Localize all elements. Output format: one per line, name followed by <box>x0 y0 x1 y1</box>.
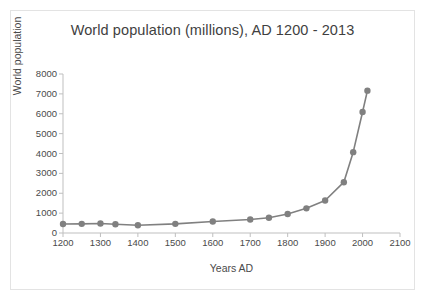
chart-figure: World population (millions), AD 1200 - 2… <box>0 0 424 304</box>
data-point-marker <box>364 87 370 93</box>
data-point-marker <box>60 221 66 227</box>
data-point-marker <box>350 149 356 155</box>
x-axis-label: Years AD <box>63 262 400 274</box>
chart-title: World population (millions), AD 1200 - 2… <box>10 22 415 38</box>
data-point-marker <box>341 179 347 185</box>
plot-area <box>63 74 400 233</box>
data-point-marker <box>284 211 290 217</box>
y-tick-label: 5000 <box>21 129 57 139</box>
x-tick-label: 1200 <box>43 237 83 248</box>
data-point-marker <box>303 205 309 211</box>
series-line <box>63 91 367 226</box>
y-tick-label: 3000 <box>21 168 57 178</box>
data-point-marker <box>172 221 178 227</box>
data-point-marker <box>79 221 85 227</box>
series-plot <box>63 74 400 233</box>
x-tick-label: 2100 <box>380 237 420 248</box>
x-tick-label: 2000 <box>343 237 383 248</box>
y-axis-tick-labels: 010002000300040005000600070008000 <box>21 74 57 233</box>
axis-lines <box>63 74 400 233</box>
data-point-marker <box>247 216 253 222</box>
x-tick-label: 1300 <box>80 237 120 248</box>
y-tick-label: 4000 <box>21 149 57 159</box>
x-tick-label: 1900 <box>305 237 345 248</box>
x-axis-tick-labels: 1200130014001500160017001800190020002100 <box>63 237 400 251</box>
y-tick-label: 8000 <box>21 69 57 79</box>
data-point-marker <box>210 218 216 224</box>
y-tick-label: 2000 <box>21 188 57 198</box>
x-tick-label: 1500 <box>155 237 195 248</box>
data-point-marker <box>135 222 141 228</box>
y-tick-label: 7000 <box>21 89 57 99</box>
data-point-marker <box>359 109 365 115</box>
data-point-marker <box>266 214 272 220</box>
data-point-marker <box>322 197 328 203</box>
x-tick-label: 1700 <box>230 237 270 248</box>
x-tick-label: 1600 <box>193 237 233 248</box>
x-tick-label: 1400 <box>118 237 158 248</box>
series-markers <box>60 87 371 228</box>
data-point-marker <box>97 220 103 226</box>
y-tick-label: 1000 <box>21 208 57 218</box>
y-tick-label: 6000 <box>21 109 57 119</box>
data-point-marker <box>112 221 118 227</box>
x-tick-label: 1800 <box>268 237 308 248</box>
